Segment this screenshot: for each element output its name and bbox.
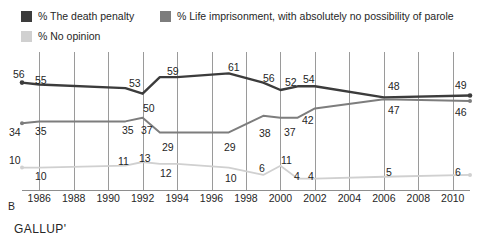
- data-label-no_opinion-11: 6: [455, 167, 461, 178]
- x-tick-2004: 2004: [338, 192, 361, 204]
- data-label-death_penalty-1: 55: [35, 75, 47, 86]
- corner-marker: B: [8, 200, 15, 212]
- plot-area: [0, 52, 481, 190]
- x-tick-1998: 1998: [234, 192, 257, 204]
- series-endpoint-1-0: [20, 121, 24, 125]
- data-label-death_penalty-9: 48: [388, 81, 400, 92]
- data-label-no_opinion-1: 10: [35, 171, 47, 182]
- data-label-death_penalty-3: 50: [143, 103, 155, 114]
- legend-swatch-life-imprisonment: [160, 11, 171, 22]
- x-tick-1992: 1992: [131, 192, 154, 204]
- data-label-no_opinion-10: 5: [386, 167, 392, 178]
- legend-label-death-penalty: % The death penalty: [38, 11, 134, 22]
- data-label-life_imprisonment-6: 38: [259, 128, 271, 139]
- chart-legend: % The death penalty % Life imprisonment,…: [0, 0, 481, 50]
- x-tick-1986: 1986: [28, 192, 51, 204]
- data-label-no_opinion-5: 10: [225, 173, 237, 184]
- data-label-death_penalty-8: 54: [303, 74, 315, 85]
- data-label-life_imprisonment-3: 37: [141, 125, 153, 136]
- data-label-life_imprisonment-1: 35: [35, 126, 47, 137]
- legend-swatch-no-opinion: [21, 31, 32, 42]
- data-label-life_imprisonment-0: 34: [9, 127, 21, 138]
- data-label-death_penalty-7: 52: [285, 77, 297, 88]
- x-tick-1990: 1990: [96, 192, 119, 204]
- data-label-no_opinion-3: 13: [139, 153, 151, 164]
- x-axis: 1986198819901992199419961998200020022004…: [0, 192, 481, 210]
- x-tick-1988: 1988: [62, 192, 85, 204]
- x-tick-2008: 2008: [407, 192, 430, 204]
- data-label-death_penalty-0: 56: [13, 69, 25, 80]
- x-tick-2002: 2002: [303, 192, 326, 204]
- data-label-life_imprisonment-9: 47: [388, 105, 400, 116]
- legend-label-life-imprisonment: % Life imprisonment, with absolutely no …: [177, 11, 454, 22]
- legend-swatch-death-penalty: [21, 11, 32, 22]
- data-label-death_penalty-5: 61: [228, 62, 240, 73]
- series-lines: [0, 52, 481, 190]
- data-label-no_opinion-7: 11: [281, 155, 292, 166]
- data-label-life_imprisonment-7: 37: [284, 127, 296, 138]
- data-label-no_opinion-4: 12: [160, 168, 172, 179]
- x-tick-2000: 2000: [269, 192, 292, 204]
- series-endpoint-0-12: [468, 93, 473, 98]
- data-label-life_imprisonment-5: 29: [224, 142, 236, 153]
- x-tick-2006: 2006: [372, 192, 395, 204]
- series-endpoint-0-0: [20, 80, 25, 85]
- axis-baseline: [22, 190, 470, 191]
- data-label-no_opinion-6: 6: [259, 163, 265, 174]
- legend-item-no-opinion[interactable]: % No opinion: [21, 31, 100, 42]
- x-tick-2010: 2010: [441, 192, 464, 204]
- series-endpoint-2-12: [468, 173, 472, 177]
- series-line-0: [22, 73, 470, 97]
- data-label-death_penalty-4: 59: [167, 66, 179, 77]
- series-endpoint-1-12: [468, 99, 472, 103]
- data-label-life_imprisonment-10: 46: [455, 107, 467, 118]
- legend-item-life-imprisonment[interactable]: % Life imprisonment, with absolutely no …: [160, 11, 454, 22]
- series-line-2: [22, 162, 470, 179]
- series-endpoint-2-0: [20, 166, 24, 170]
- x-tick-1994: 1994: [165, 192, 188, 204]
- data-label-death_penalty-10: 49: [455, 80, 467, 91]
- legend-label-no-opinion: % No opinion: [38, 31, 100, 42]
- data-label-death_penalty-2: 53: [129, 78, 141, 89]
- gallup-line-chart: % The death penalty % Life imprisonment,…: [0, 0, 481, 248]
- source-label: GALLUP': [14, 222, 66, 236]
- data-label-life_imprisonment-8: 42: [302, 115, 314, 126]
- data-label-life_imprisonment-2: 35: [122, 125, 134, 136]
- data-label-no_opinion-8: 4: [294, 171, 300, 182]
- legend-item-death-penalty[interactable]: % The death penalty: [21, 11, 134, 22]
- series-line-1: [22, 99, 470, 132]
- data-label-no_opinion-2: 11: [118, 156, 129, 167]
- data-label-death_penalty-6: 56: [263, 73, 275, 84]
- data-label-no_opinion-9: 4: [308, 171, 314, 182]
- x-tick-1996: 1996: [200, 192, 223, 204]
- data-label-life_imprisonment-4: 29: [162, 142, 174, 153]
- data-label-no_opinion-0: 10: [9, 155, 21, 166]
